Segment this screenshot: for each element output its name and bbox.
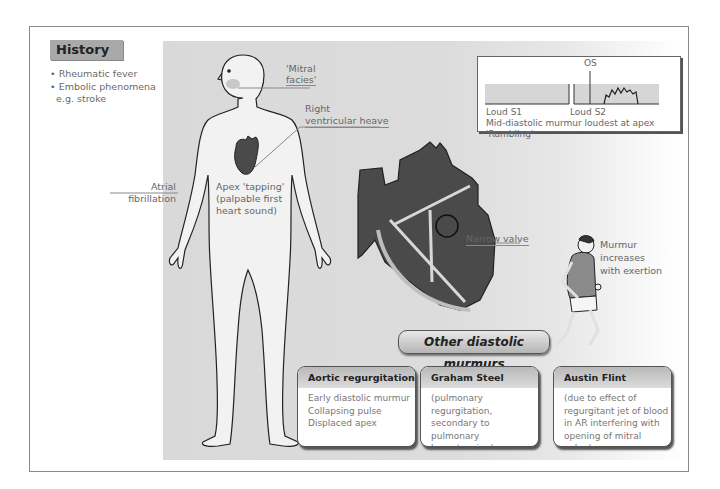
exertion-label: Murmurincreaseswith exertion bbox=[600, 238, 662, 277]
card-body: (due to effect of regurgitant jet of blo… bbox=[554, 388, 671, 447]
heart-cross-section-diagram bbox=[358, 142, 495, 310]
card-body: (pulmonary regurgitation, secondary to p… bbox=[421, 388, 538, 447]
jogging-man-figure bbox=[556, 236, 601, 345]
card-title: Austin Flint bbox=[554, 367, 671, 388]
phonocardiogram-box: OS Loud S1 Loud S2 Mid-diastolic murmur … bbox=[477, 56, 681, 132]
card-graham-steel: Graham Steel (pulmonary regurgitation, s… bbox=[420, 366, 539, 447]
card-body: Early diastolic murmur Collapsing pulse … bbox=[298, 388, 415, 430]
s2-label: Loud S2 bbox=[570, 107, 606, 117]
os-label: OS bbox=[584, 58, 597, 68]
card-austin-flint: Austin Flint (due to effect of regurgita… bbox=[553, 366, 672, 447]
s1-label: Loud S1 bbox=[486, 107, 522, 117]
murmur-caption: Mid-diastolic murmur loudest at apex'Rum… bbox=[486, 118, 654, 140]
rv-heave-label: Rightventricular heave bbox=[305, 103, 389, 128]
card-title: Graham Steel bbox=[421, 367, 538, 388]
other-murmurs-heading: Other diastolic murmurs bbox=[398, 330, 550, 354]
card-aortic-regurgitation: Aortic regurgitation Early diastolic mur… bbox=[297, 366, 416, 447]
narrow-valve-label: Narrow valve bbox=[466, 233, 529, 246]
apex-tapping-label: Apex 'tapping'(palpable firstheart sound… bbox=[216, 181, 284, 217]
atrial-fibrillation-label: Atrialfibrillation bbox=[112, 181, 176, 205]
mitral-facies-label: 'Mitralfacies' bbox=[286, 63, 316, 86]
card-title: Aortic regurgitation bbox=[298, 367, 415, 388]
